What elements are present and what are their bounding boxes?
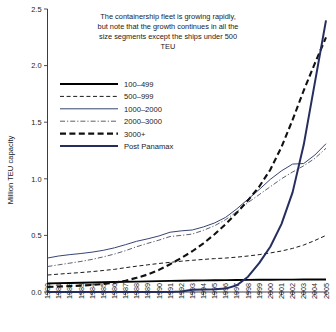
y-tick-label: 1.0 (31, 175, 41, 184)
chart-title-line-3: size segments except the ships under 500 (99, 32, 237, 41)
legend-label: 100–499 (124, 80, 154, 89)
x-tick-label: 1999 (255, 283, 264, 299)
x-tick-label: 1996 (221, 283, 230, 299)
chart-title-line-2: but note that the growth continues in al… (98, 22, 239, 31)
x-tick-label: 2002 (288, 283, 297, 299)
y-tick-label: 2.0 (31, 61, 41, 70)
x-tick-label: 1998 (244, 283, 253, 299)
chart-container: The containership fleet is growing rapid… (0, 0, 336, 332)
line-chart: The containership fleet is growing rapid… (0, 0, 336, 332)
x-tick-label: 1995 (210, 283, 219, 299)
x-tick-label: 2001 (277, 283, 286, 299)
legend-label: Post Panamax (124, 142, 174, 151)
x-tick-label: 2005 (322, 283, 331, 299)
x-tick-label: 2000 (266, 283, 275, 299)
legend-label: 2000–3000 (124, 117, 162, 126)
legend-label: 3000+ (124, 130, 146, 139)
legend-label: 500–999 (124, 92, 154, 101)
y-axis-label: Million TEU capacity (6, 135, 15, 204)
legend-label: 1000–2000 (124, 105, 162, 114)
y-tick-label: 0.5 (31, 231, 41, 240)
y-tick-label: 2.5 (31, 5, 41, 14)
x-tick-label: 1994 (199, 283, 208, 299)
chart-title-line-4: TEU (161, 42, 176, 51)
x-tick-label: 2003 (299, 283, 308, 299)
y-tick-label: 1.5 (31, 118, 41, 127)
chart-title-line-1: The containership fleet is growing rapid… (100, 12, 235, 21)
x-tick-label: 2004 (310, 283, 319, 299)
y-tick-label: 0.0 (31, 288, 41, 297)
